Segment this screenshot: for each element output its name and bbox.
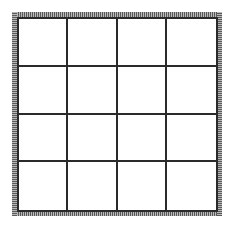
cell-r1-c3[interactable] xyxy=(167,67,216,115)
cell-r0-c2[interactable] xyxy=(118,19,167,67)
cell-r2-c0[interactable] xyxy=(19,115,68,163)
cell-r1-c2[interactable] xyxy=(118,67,167,115)
cell-r3-c0[interactable] xyxy=(19,162,68,210)
cell-r0-c0[interactable] xyxy=(19,19,68,67)
cell-r1-c0[interactable] xyxy=(19,67,68,115)
cell-r0-c3[interactable] xyxy=(167,19,216,67)
cell-r3-c2[interactable] xyxy=(118,162,167,210)
cell-r3-c1[interactable] xyxy=(68,162,117,210)
cell-r2-c3[interactable] xyxy=(167,115,216,163)
game-board xyxy=(17,17,218,212)
cell-r3-c3[interactable] xyxy=(167,162,216,210)
cell-r2-c1[interactable] xyxy=(68,115,117,163)
cell-r0-c1[interactable] xyxy=(68,19,117,67)
cell-r2-c2[interactable] xyxy=(118,115,167,163)
cell-r1-c1[interactable] xyxy=(68,67,117,115)
